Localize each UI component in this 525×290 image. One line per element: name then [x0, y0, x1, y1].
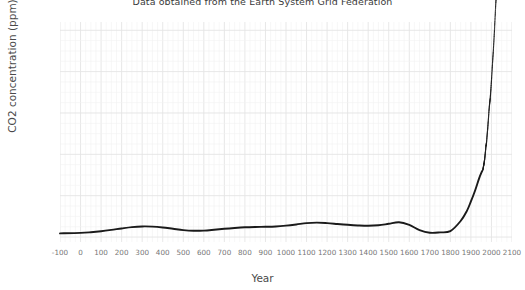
x-tick-1700: 1700 [421, 248, 439, 257]
x-tick-600: 600 [197, 248, 211, 257]
x-tick-100: 100 [94, 248, 108, 257]
x-tick-1600: 1600 [400, 248, 418, 257]
x-tick-0: 0 [78, 248, 83, 257]
x-tick-1500: 1500 [380, 248, 398, 257]
x-tick-1800: 1800 [441, 248, 459, 257]
x-axis-label: Year [0, 272, 525, 284]
x-tick-2100: 2100 [503, 248, 521, 257]
x-tick-900: 900 [259, 248, 273, 257]
x-tick-700: 700 [218, 248, 232, 257]
data-line-series-0 [60, 171, 482, 234]
x-tick-300: 300 [135, 248, 149, 257]
x-tick-500: 500 [176, 248, 190, 257]
x-tick-1900: 1900 [462, 248, 480, 257]
data-series-layer [60, 22, 512, 242]
x-tick-800: 800 [238, 248, 252, 257]
x-tick-2000: 2000 [482, 248, 500, 257]
x-tick-200: 200 [115, 248, 129, 257]
chart-title: Data obtained from the Earth System Grid… [0, 0, 525, 7]
co2-concentration-chart: Data obtained from the Earth System Grid… [0, 0, 525, 290]
x-tick-1100: 1100 [297, 248, 315, 257]
x-tick-1200: 1200 [318, 248, 336, 257]
x-tick--100: -100 [52, 248, 68, 257]
x-tick-1400: 1400 [359, 248, 377, 257]
x-tick-1300: 1300 [338, 248, 356, 257]
y-axis-label: CO2 concentration (ppm) [6, 0, 18, 146]
plot-area [60, 22, 512, 242]
x-tick-400: 400 [156, 248, 170, 257]
x-tick-1000: 1000 [277, 248, 295, 257]
